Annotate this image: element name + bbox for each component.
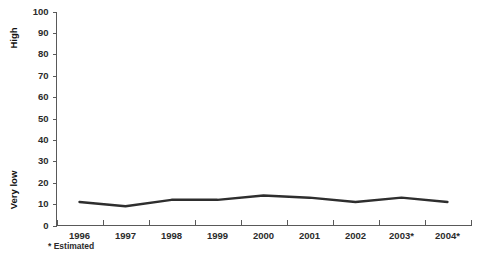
line-chart: 0102030405060708090100 19961997199819992…	[0, 0, 488, 258]
y-axis-tick-label: 10	[38, 198, 49, 209]
x-axis-tick-label: 1998	[161, 230, 182, 241]
y-axis-tick-label: 0	[43, 220, 48, 231]
x-axis-tick-label: 2002	[345, 230, 366, 241]
y-axis-tick-label: 50	[38, 113, 49, 124]
x-axis-tick-label: 2003*	[389, 230, 414, 241]
data-series-line	[80, 196, 448, 207]
y-axis-tick-label: 20	[38, 177, 49, 188]
y-axis-tick-labels: 0102030405060708090100	[33, 6, 49, 231]
y-axis-tick-label: 70	[38, 70, 49, 81]
y-axis-tick-label: 60	[38, 91, 49, 102]
x-axis-tick-label: 2001	[299, 230, 321, 241]
y-axis-high-label: High	[8, 27, 19, 48]
y-axis-tick-label: 30	[38, 155, 49, 166]
y-axis-group: 0102030405060708090100	[33, 6, 57, 231]
x-axis-tick-label: 1997	[115, 230, 136, 241]
x-axis-tick-label: 1999	[207, 230, 228, 241]
estimated-footnote: * Estimated	[48, 241, 94, 251]
y-axis-tick-label: 90	[38, 27, 49, 38]
x-axis-tick-label: 2004*	[435, 230, 460, 241]
x-axis-group: 19961997199819992000200120022003*2004*	[57, 220, 472, 241]
y-axis-ticks	[53, 13, 57, 227]
plot-area	[80, 196, 448, 207]
x-axis-tick-labels: 19961997199819992000200120022003*2004*	[69, 230, 460, 241]
y-axis-tick-label: 100	[33, 6, 49, 17]
y-axis-tick-label: 80	[38, 48, 49, 59]
y-axis-tick-label: 40	[38, 134, 49, 145]
x-axis-tick-label: 2000	[253, 230, 274, 241]
x-axis-ticks	[58, 220, 472, 226]
y-axis-very-low-label: Very low	[8, 170, 19, 209]
chart-canvas: 0102030405060708090100 19961997199819992…	[0, 0, 488, 258]
x-axis-tick-label: 1996	[69, 230, 90, 241]
